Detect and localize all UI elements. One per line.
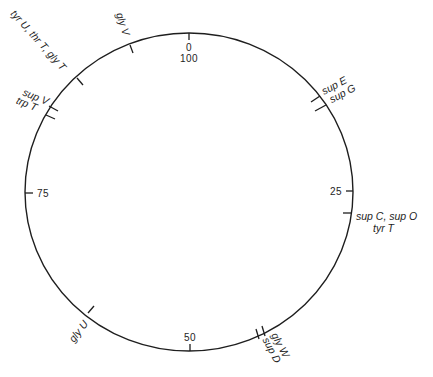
locus-tick-tyrU-thrT-glyT <box>77 78 83 85</box>
scale-label-100: 100 <box>180 53 198 64</box>
gene-label-tyrU-thrT-glyT: tyr U, thr T, gly T <box>9 7 71 74</box>
scale-label-25: 25 <box>330 186 342 197</box>
gene-label-supC-supO: sup C, sup O <box>356 210 417 222</box>
gene-label-glyU: gly U <box>66 318 90 345</box>
locus-supC-supO-tyrT: sup C, sup O tyr T <box>343 210 417 234</box>
circular-genetic-map: 0 100 25 50 75 sup E sup G sup C, sup O … <box>0 0 433 377</box>
scale-label-0: 0 <box>186 42 192 53</box>
locus-tick-supG <box>315 105 326 111</box>
scale-label-50: 50 <box>184 332 196 343</box>
gene-label-glyV: gly V <box>114 11 133 38</box>
gene-label-tyrT: tyr T <box>373 222 396 234</box>
chromosome-circle <box>25 33 353 351</box>
locus-tick-supV <box>49 106 58 111</box>
scale-label-75: 75 <box>37 188 49 199</box>
locus-tick-supE <box>311 96 320 102</box>
scale-marks: 0 100 25 50 75 <box>25 33 353 351</box>
locus-tick-trpT <box>46 115 55 119</box>
locus-supV-trpT: sup V trp T <box>15 85 58 119</box>
locus-tyrU-thrT-glyT: tyr U, thr T, gly T <box>9 7 83 85</box>
locus-glyW-supD: gly W sup D <box>256 326 293 365</box>
locus-tick-glyV <box>130 45 133 53</box>
locus-tick-glyU <box>88 306 94 313</box>
locus-supE-supG: sup E sup G <box>311 72 357 111</box>
